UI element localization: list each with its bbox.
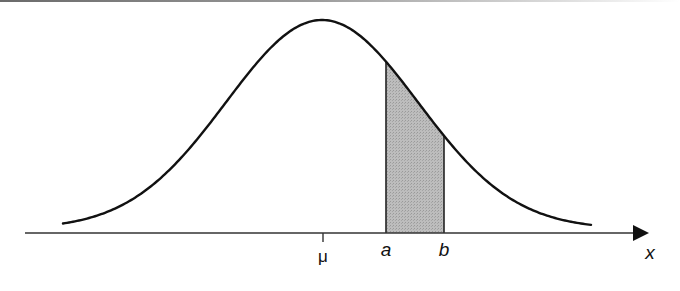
x-axis-label: x [644, 242, 656, 263]
bell-curve [63, 20, 591, 225]
shaded-probability-area [386, 62, 444, 233]
normal-distribution-diagram: μ a b x [0, 0, 680, 291]
upper-bound-label: b [439, 239, 450, 260]
x-axis-arrow-icon [633, 225, 649, 241]
lower-bound-label: a [381, 239, 392, 260]
mean-label: μ [318, 247, 328, 266]
